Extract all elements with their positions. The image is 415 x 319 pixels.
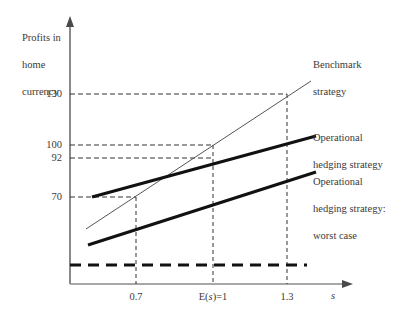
annotation-worst-line-3: worst case: [313, 229, 386, 243]
x-tick-label-expected: E(s)=1: [180, 291, 246, 302]
chart-figure: Profits in home currency 130 100 92 70 0…: [0, 0, 415, 319]
y-axis-arrow-icon: [66, 16, 74, 27]
series-line-benchmark-strategy: [86, 81, 311, 229]
series-line-operational-hedging-strategy: [92, 136, 316, 197]
annotation-benchmark-line-1: Benchmark: [313, 58, 361, 72]
annotation-operational-line-1: Operational: [313, 131, 383, 145]
x-axis-arrow-icon: [342, 280, 353, 288]
x-tick-expected-prefix: E(: [199, 291, 209, 302]
x-tick-expected-suffix: )=1: [213, 291, 228, 302]
y-tick-label-130: 130: [24, 88, 62, 99]
x-tick-label-0-7: 0.7: [111, 291, 161, 302]
annotation-worst-line-2: hedging strategy:: [313, 202, 386, 216]
x-axis-title: s: [331, 290, 335, 301]
x-tick-label-1-3: 1.3: [262, 291, 312, 302]
annotation-worst-line-1: Operational: [313, 175, 386, 189]
y-tick-label-100: 100: [24, 139, 62, 150]
annotation-operational-hedging-worst-case: Operational hedging strategy: worst case: [313, 161, 386, 256]
y-tick-label-92: 92: [24, 152, 62, 163]
series-line-operational-hedging-worst-case: [88, 172, 316, 245]
annotation-benchmark-line-2: strategy: [313, 85, 361, 99]
y-tick-label-70: 70: [24, 191, 62, 202]
annotation-benchmark-strategy: Benchmark strategy: [313, 44, 361, 112]
